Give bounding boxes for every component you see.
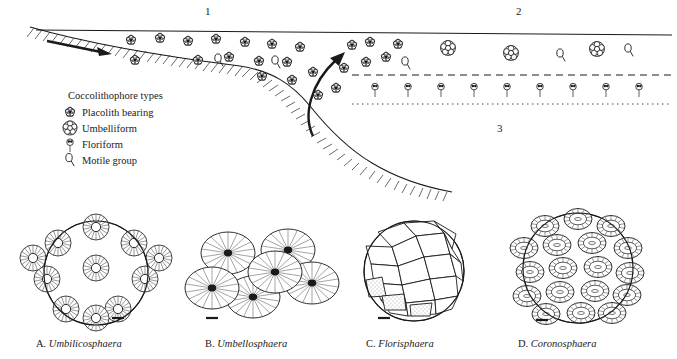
specimen-letter-b: B. [205, 338, 215, 349]
specimen-label-b: B. Umbellosphaera [205, 338, 287, 349]
coccolithophore-figure: 1 2 3 Coccolithophore types Placolith be… [0, 0, 677, 359]
specimen-genus-c: Florisphaera [378, 338, 433, 349]
specimen-letter-a: A. [36, 338, 46, 349]
specimen-b-umbellosphaera [185, 229, 339, 318]
specimen-letter-d: D. [518, 338, 528, 349]
specimen-c-florisphaera [364, 221, 464, 321]
specimen-label-a: A. Umbilicosphaera [36, 338, 122, 349]
specimen-genus-a: Umbilicosphaera [49, 338, 122, 349]
specimen-genus-b: Umbellosphaera [217, 338, 287, 349]
specimen-a-umbilicosphaera [20, 214, 172, 331]
specimen-label-d: D. Coronosphaera [518, 338, 596, 349]
specimen-genus-d: Coronosphaera [531, 338, 597, 349]
specimen-panel [0, 0, 677, 359]
specimen-d-coronosphaera [510, 209, 644, 325]
specimen-letter-c: C. [366, 338, 376, 349]
specimen-label-c: C. Florisphaera [366, 338, 434, 349]
